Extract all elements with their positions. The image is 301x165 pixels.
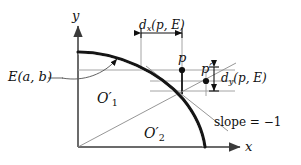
region-label-o1-prime: O′1 [97,91,118,107]
slope-label: slope = −1 [214,116,281,128]
dy-label: dy(p, E) [221,72,267,85]
curve-label-arguments: (a, b) [18,69,52,84]
region-label-o2-prime: O′2 [144,126,165,142]
dx-base: d [139,18,147,32]
point-p-prime-dot [203,78,209,84]
dy-arguments: (p, E) [233,71,266,85]
point-p-label: p [178,51,186,64]
curve-label-leader-arrow [62,59,117,79]
dy-base: d [221,71,229,85]
ellipse-distance-diagram: y x E(a, b) O′1 O′2 p p′ dx(p, E) dy(p, … [0,0,301,165]
curve-label-name: E [8,69,18,84]
curve-label: E(a, b) [8,70,52,83]
dx-label: dx(p, E) [139,19,185,32]
x-axis-label: x [245,140,252,153]
dx-arguments: (p, E) [151,18,184,32]
point-p-prime-label: p′ [201,62,212,75]
y-axis-label: y [72,9,79,22]
point-p-dot [179,67,185,73]
point-p-prime-mark: ′ [209,61,212,76]
region-1-base: O [97,90,108,106]
region-2-subscript: 2 [159,132,165,143]
region-1-subscript: 1 [112,97,118,108]
region-2-base: O [144,125,155,141]
